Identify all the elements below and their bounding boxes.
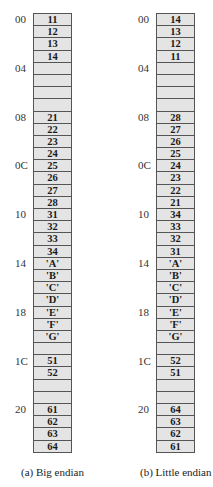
memory-cell: 11 [34, 14, 71, 26]
memory-cell: 22 [157, 185, 194, 197]
memory-cell: 63 [34, 428, 71, 440]
memory-cell [34, 343, 71, 355]
memory-cell: 32 [34, 221, 71, 233]
memory-cell [157, 392, 194, 404]
address-label: 10 [15, 208, 26, 220]
memory-cell: 31 [34, 209, 71, 221]
address-label: 14 [138, 257, 149, 269]
address-label: 08 [138, 111, 149, 123]
address-label: 08 [15, 111, 26, 123]
memory-cell: 27 [34, 185, 71, 197]
memory-cell: 51 [157, 367, 194, 379]
memory-cell: 64 [34, 441, 71, 453]
caption-big-endian: (a) Big endian [21, 466, 84, 478]
memory-cell: 'G' [34, 331, 71, 343]
memory-cell: 12 [157, 38, 194, 50]
memory-cell: 62 [157, 428, 194, 440]
memory-cell: 26 [34, 172, 71, 184]
big-endian-panel: 0004080C1014181C20 111213142122232425262… [0, 0, 106, 487]
memory-cell: 'B' [34, 270, 71, 282]
memory-cell: 51 [34, 355, 71, 367]
memory-cell: 'A' [34, 258, 71, 270]
memory-cell: 'C' [34, 282, 71, 294]
memory-cell: 61 [34, 404, 71, 416]
memory-column-little-endian: 14131211282726252423222134333231'A''B''C… [156, 13, 195, 453]
memory-cell: 61 [157, 441, 194, 453]
memory-cell: 'D' [157, 294, 194, 306]
memory-cell: 'E' [34, 307, 71, 319]
address-label: 18 [15, 306, 26, 318]
memory-cell: 34 [34, 246, 71, 258]
memory-cell: 13 [34, 38, 71, 50]
memory-cell [34, 99, 71, 111]
memory-cell: 'D' [34, 294, 71, 306]
memory-cell: 'E' [157, 307, 194, 319]
address-label: 0C [15, 159, 28, 171]
address-label: 20 [15, 403, 26, 415]
memory-cell: 28 [157, 112, 194, 124]
memory-cell [157, 99, 194, 111]
memory-cell: 32 [157, 233, 194, 245]
memory-cell [34, 75, 71, 87]
memory-cell [157, 380, 194, 392]
memory-cell: 24 [157, 160, 194, 172]
memory-cell [157, 343, 194, 355]
memory-cell: 33 [34, 233, 71, 245]
memory-cell: 52 [34, 367, 71, 379]
memory-cell: 63 [157, 416, 194, 428]
address-label: 04 [138, 62, 149, 74]
memory-cell: 23 [34, 136, 71, 148]
memory-cell: 14 [157, 14, 194, 26]
memory-cell [157, 87, 194, 99]
memory-cell [34, 392, 71, 404]
address-label: 18 [138, 306, 149, 318]
memory-cell: 64 [157, 404, 194, 416]
address-label: 00 [138, 13, 149, 25]
address-label: 00 [15, 13, 26, 25]
memory-cell: 13 [157, 26, 194, 38]
memory-cell [34, 87, 71, 99]
memory-cell: 14 [34, 51, 71, 63]
address-label: 1C [15, 355, 28, 367]
memory-cell: 62 [34, 416, 71, 428]
memory-cell: 'B' [157, 270, 194, 282]
memory-cell: 21 [34, 112, 71, 124]
memory-cell: 'G' [157, 331, 194, 343]
memory-cell: 27 [157, 124, 194, 136]
address-label: 10 [138, 208, 149, 220]
address-label: 20 [138, 403, 149, 415]
memory-cell: 28 [34, 197, 71, 209]
memory-column-big-endian: 11121314212223242526272831323334'A''B''C… [33, 13, 72, 453]
address-label: 1C [138, 355, 151, 367]
memory-cell: 'F' [157, 319, 194, 331]
address-label: 0C [138, 159, 151, 171]
address-label: 14 [15, 257, 26, 269]
address-label: 04 [15, 62, 26, 74]
memory-cell: 23 [157, 172, 194, 184]
memory-cell: 11 [157, 51, 194, 63]
memory-cell: 26 [157, 136, 194, 148]
memory-cell: 31 [157, 246, 194, 258]
memory-cell: 52 [157, 355, 194, 367]
memory-cell: 25 [157, 148, 194, 160]
memory-cell [34, 63, 71, 75]
memory-cell: 'F' [34, 319, 71, 331]
memory-cell [34, 380, 71, 392]
memory-cell: 22 [34, 124, 71, 136]
memory-cell: 'C' [157, 282, 194, 294]
memory-cell [157, 75, 194, 87]
memory-cell: 21 [157, 197, 194, 209]
memory-cell: 'A' [157, 258, 194, 270]
memory-cell: 25 [34, 160, 71, 172]
memory-cell: 34 [157, 209, 194, 221]
memory-cell: 33 [157, 221, 194, 233]
memory-cell: 12 [34, 26, 71, 38]
memory-cell [157, 63, 194, 75]
memory-cell: 24 [34, 148, 71, 160]
caption-little-endian: (b) Little endian [140, 466, 211, 478]
little-endian-panel: 0004080C1014181C20 141312112827262524232… [106, 0, 213, 487]
